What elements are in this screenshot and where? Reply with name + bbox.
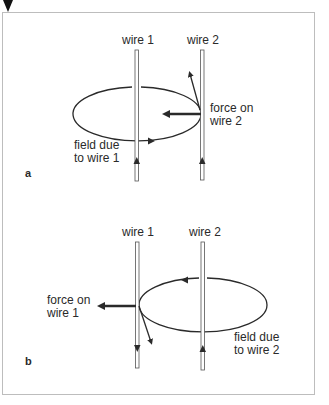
field-vector-arrow-icon xyxy=(190,74,200,110)
panel-b-tag: b xyxy=(25,355,32,367)
wire-2-label: wire 2 xyxy=(189,226,221,239)
down-triangle-marker-icon xyxy=(3,0,13,12)
wire-1-label: wire 1 xyxy=(122,226,154,239)
field-vector-arrow-icon xyxy=(139,306,151,342)
force-label-line2: wire 2 xyxy=(210,115,242,128)
field-direction-arrow-icon xyxy=(181,277,188,284)
field-label-line2: to wire 2 xyxy=(234,344,279,357)
field-label-line2: to wire 1 xyxy=(74,152,119,165)
panel-a-tag: a xyxy=(25,167,31,179)
wire-1-label: wire 1 xyxy=(122,34,154,47)
figure: wire 1 wire 2 force on wire 2 field due … xyxy=(0,0,329,405)
current-up-arrow-icon xyxy=(199,157,206,164)
current-up-arrow-icon xyxy=(200,345,207,352)
diagram-canvas xyxy=(0,0,329,405)
current-up-arrow-icon xyxy=(134,157,141,164)
force-label-line2: wire 1 xyxy=(47,307,79,320)
field-direction-arrow-icon xyxy=(148,138,155,145)
current-down-arrow-icon xyxy=(134,345,141,352)
wire-2-label: wire 2 xyxy=(187,34,219,47)
